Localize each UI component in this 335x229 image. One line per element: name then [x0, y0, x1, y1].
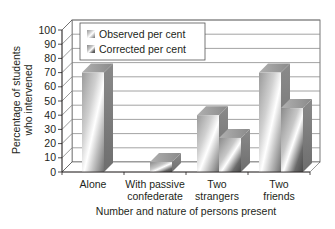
- y-axis-title-line2: who intervened: [22, 64, 34, 136]
- y-tick-label: 40: [44, 109, 56, 121]
- bar: [219, 129, 250, 172]
- x-category-label: confederate: [127, 190, 183, 202]
- y-tick-label: 20: [44, 137, 56, 149]
- y-axis-title-line1: Percentage of students: [10, 46, 22, 154]
- y-tick-label: 50: [44, 95, 56, 107]
- y-tick-label: 70: [44, 66, 56, 78]
- y-tick-label: 60: [44, 80, 56, 92]
- bar-chart: 0102030405060708090100 AloneWith passive…: [0, 0, 335, 229]
- y-axis: 0102030405060708090100: [38, 24, 62, 178]
- x-category-label: Two: [207, 178, 226, 190]
- x-category-label: Alone: [80, 178, 107, 190]
- x-category-label: friends: [263, 190, 295, 202]
- x-axis-title: Number and nature of persons present: [96, 205, 276, 217]
- x-axis: AloneWith passiveconfederateTwostrangers…: [62, 172, 310, 202]
- bar: [281, 99, 312, 172]
- y-tick-label: 90: [44, 38, 56, 50]
- corrected-swatch-icon: [87, 45, 95, 53]
- legend-item-corrected: Corrected per cent: [87, 43, 186, 55]
- x-category-label: Two: [269, 178, 288, 190]
- y-tick-label: 80: [44, 52, 56, 64]
- x-category-label: With passive: [125, 178, 185, 190]
- y-tick-label: 30: [44, 123, 56, 135]
- bar: [82, 64, 113, 172]
- observed-swatch-icon: [87, 30, 95, 38]
- legend: Observed per cent Corrected per cent: [80, 23, 205, 60]
- y-tick-label: 10: [44, 151, 56, 163]
- legend-label-corrected: Corrected per cent: [99, 43, 186, 55]
- y-tick-label: 0: [50, 166, 56, 178]
- y-tick-label: 100: [38, 24, 56, 36]
- legend-label-observed: Observed per cent: [99, 28, 185, 40]
- x-category-label: strangers: [195, 190, 239, 202]
- legend-item-observed: Observed per cent: [87, 28, 185, 40]
